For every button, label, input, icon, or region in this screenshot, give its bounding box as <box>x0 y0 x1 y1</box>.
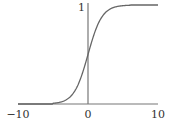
sigmoid-chart: −10010 1 <box>0 0 169 129</box>
x-tick-label: −10 <box>6 108 29 121</box>
y-tick-labels: 1 <box>78 1 85 14</box>
x-tick-labels: −10010 <box>6 108 165 121</box>
x-tick-label: 10 <box>151 108 165 121</box>
x-tick-label: 0 <box>85 108 92 121</box>
y-tick-label: 1 <box>78 1 85 14</box>
